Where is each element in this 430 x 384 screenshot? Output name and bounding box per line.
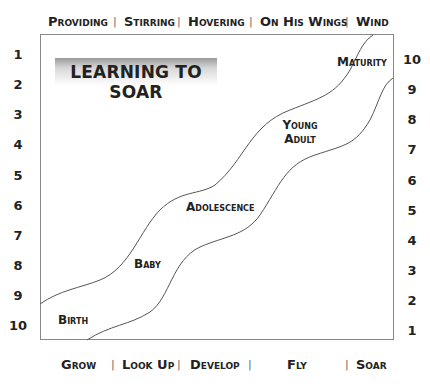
stage-young-adult: Young Adult — [280, 118, 320, 146]
separator: | — [248, 358, 252, 371]
bottom-label-develop: Develop — [190, 357, 240, 372]
bottom-label-soar: Soar — [356, 357, 387, 372]
bottom-labels: Grow | Look Up | Develop | Fly | Soar — [0, 357, 430, 377]
bottom-label-look-up: Look Up — [122, 357, 174, 372]
title-banner: LEARNING TO SOAR — [55, 58, 217, 86]
stage-adolescence: Adolescence — [186, 200, 254, 214]
stage-young-adult-line1: Young — [280, 118, 320, 132]
bottom-label-fly: Fly — [287, 357, 307, 372]
stage-baby: Baby — [134, 257, 161, 271]
bottom-label-grow: Grow — [61, 357, 96, 372]
stage-birth: Birth — [58, 313, 88, 327]
stage-young-adult-line2: Adult — [280, 132, 320, 146]
stage-maturity: Maturity — [337, 55, 387, 69]
diagram-title: LEARNING TO SOAR — [55, 62, 217, 102]
separator: | — [345, 358, 349, 371]
separator: | — [177, 358, 181, 371]
separator: | — [111, 358, 115, 371]
